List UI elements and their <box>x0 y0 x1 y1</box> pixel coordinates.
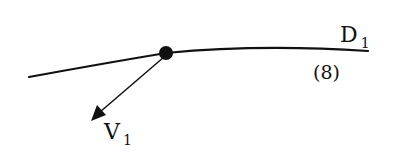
vector-label-v1: V1 <box>104 121 132 147</box>
point-marker <box>159 46 173 60</box>
curve-label-name: D <box>340 22 358 47</box>
equation-number-label: (8) <box>313 63 340 82</box>
vector-label-name: V <box>104 119 120 144</box>
vector-label-subscript: 1 <box>123 132 132 148</box>
curve-label-d1: D1 <box>340 24 370 50</box>
vector-v1-shaft <box>100 57 164 112</box>
curve-label-subscript: 1 <box>361 35 370 51</box>
